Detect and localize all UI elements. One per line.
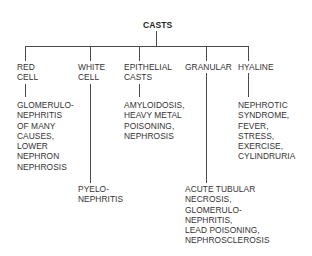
conditions-red-cell: GLOMERULO- NEPHRITIS OF MANY CAUSES, LOW… bbox=[17, 100, 74, 172]
root-connector bbox=[156, 31, 157, 46]
branch-bar bbox=[25, 46, 249, 47]
white-cell-connector bbox=[90, 84, 91, 183]
red-cell-drop bbox=[25, 46, 26, 61]
granular-connector bbox=[206, 73, 207, 183]
category-epithelial-casts: EPITHELIAL CASTS bbox=[124, 62, 172, 83]
epithelial-drop bbox=[139, 46, 140, 61]
casts-diagram: CASTS RED CELL GLOMERULO- NEPHRITIS OF M… bbox=[0, 0, 312, 256]
white-cell-drop bbox=[90, 46, 91, 61]
conditions-hyaline: NEPHROTIC SYNDROME, FEVER, STRESS, EXERC… bbox=[238, 100, 295, 162]
granular-drop bbox=[206, 46, 207, 61]
category-white-cell: WHITE CELL bbox=[78, 62, 105, 83]
diagram-title: CASTS bbox=[143, 20, 172, 30]
hyaline-connector bbox=[248, 73, 249, 97]
conditions-epithelial-casts: AMYLOIDOSIS, HEAVY METAL POISONING, NEPH… bbox=[124, 100, 185, 141]
conditions-granular: ACUTE TUBULAR NECROSIS, GLOMERULO- NEPHR… bbox=[185, 184, 270, 246]
category-hyaline: HYALINE bbox=[238, 62, 274, 72]
category-red-cell: RED CELL bbox=[17, 62, 38, 83]
hyaline-drop bbox=[248, 46, 249, 61]
category-granular: GRANULAR bbox=[185, 62, 232, 72]
epithelial-connector bbox=[139, 84, 140, 97]
conditions-white-cell: PYELO- NEPHRITIS bbox=[78, 184, 123, 205]
red-cell-connector bbox=[25, 84, 26, 97]
